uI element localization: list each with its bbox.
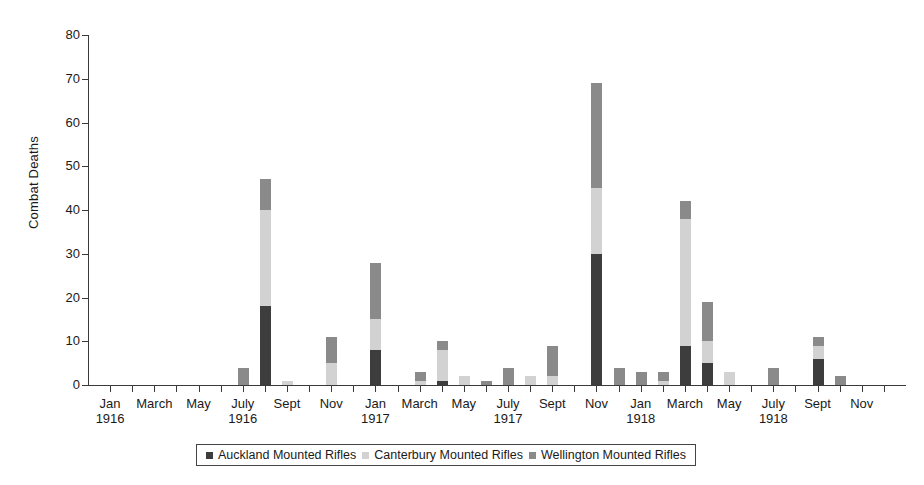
bar-segment-wellington [768,368,779,386]
x-axis-label-month: July [496,396,519,411]
x-axis-label-month: Nov [320,396,343,411]
legend-item-wellington[interactable]: Wellington Mounted Rifles [526,448,689,462]
y-axis-title: Combat Deaths [26,53,41,313]
x-tick [574,386,575,392]
x-tick [132,386,133,392]
bar-segment-wellington [260,179,271,210]
bar[interactable] [459,376,470,385]
bar-segment-canterbury [326,363,337,385]
bar[interactable] [813,337,824,385]
bar[interactable] [525,376,536,385]
bar-segment-auckland [813,359,824,385]
bar-segment-canterbury [724,372,735,385]
x-tick [353,386,354,392]
x-tick [795,386,796,392]
bar[interactable] [636,372,647,385]
bar-segment-wellington [614,368,625,386]
bar[interactable] [238,368,249,386]
bar-segment-auckland [437,381,448,385]
x-axis-label-month: July [762,396,785,411]
bar-segment-canterbury [415,381,426,385]
x-axis-label: Nov [827,396,897,411]
bar-segment-canterbury [525,376,536,385]
bar-segment-wellington [547,346,558,377]
y-tick-label: 30 [40,247,80,260]
y-tick-label: 10 [40,334,80,347]
x-tick [729,386,730,392]
x-axis-label-month: Jan [100,396,121,411]
x-axis-label-month: Jan [630,396,651,411]
x-tick [486,386,487,392]
x-tick [840,386,841,392]
bar-segment-wellington [481,381,492,385]
bar-segment-wellington [813,337,824,346]
bar-segment-wellington [680,201,691,219]
bar-segment-wellington [702,302,713,341]
bar-segment-wellington [835,376,846,385]
legend-label: Auckland Mounted Rifles [218,448,356,462]
bar-segment-wellington [503,368,514,386]
bar-segment-canterbury [547,376,558,385]
x-axis-label-year: 1916 [208,411,278,426]
bar[interactable] [658,372,669,385]
x-tick [663,386,664,392]
bar[interactable] [547,346,558,385]
bar[interactable] [503,368,514,386]
y-tick-label: 40 [40,203,80,216]
x-tick [375,386,376,392]
bar-segment-auckland [680,346,691,385]
bar[interactable] [591,83,602,385]
x-tick [265,386,266,392]
legend-item-canterbury[interactable]: Canterbury Mounted Rifles [359,448,526,462]
bar[interactable] [282,381,293,385]
x-tick [508,386,509,392]
y-tick-label: 50 [40,159,80,172]
x-tick [176,386,177,392]
x-tick [818,386,819,392]
bar[interactable] [614,368,625,386]
x-axis-label-year: 1917 [473,411,543,426]
bar-segment-auckland [591,254,602,385]
bar[interactable] [370,263,381,386]
bar-segment-canterbury [282,381,293,385]
x-tick [884,386,885,392]
bar[interactable] [768,368,779,386]
x-axis-label-year: 1916 [75,411,145,426]
x-tick [707,386,708,392]
bar-segment-canterbury [437,350,448,381]
bar[interactable] [702,302,713,385]
x-axis-label-month: Nov [585,396,608,411]
x-tick [309,386,310,392]
bar[interactable] [260,179,271,385]
bar-segment-canterbury [260,210,271,306]
x-tick [398,386,399,392]
bar[interactable] [415,372,426,385]
x-tick [221,386,222,392]
bar[interactable] [437,341,448,385]
legend-item-auckland[interactable]: Auckland Mounted Rifles [203,448,359,462]
x-axis-label-month: Jan [365,396,386,411]
x-tick [154,386,155,392]
bar-segment-auckland [702,363,713,385]
x-tick [331,386,332,392]
bar[interactable] [481,381,492,385]
legend-label: Canterbury Mounted Rifles [374,448,523,462]
x-tick [862,386,863,392]
bar-segment-wellington [437,341,448,350]
bar[interactable] [326,337,337,385]
bar[interactable] [835,376,846,385]
bar-segment-canterbury [658,381,669,385]
x-axis-label-year: 1917 [340,411,410,426]
x-axis-label-month: Nov [850,396,873,411]
x-tick [530,386,531,392]
x-tick [420,386,421,392]
bar[interactable] [680,201,691,385]
bar-segment-wellington [636,372,647,385]
plot-area [88,35,906,385]
bar-segment-wellington [591,83,602,188]
bar-segment-canterbury [370,319,381,350]
bar[interactable] [724,372,735,385]
x-tick [641,386,642,392]
x-axis-label-year: 1918 [738,411,808,426]
chart-legend: Auckland Mounted RiflesCanterbury Mounte… [196,444,696,466]
